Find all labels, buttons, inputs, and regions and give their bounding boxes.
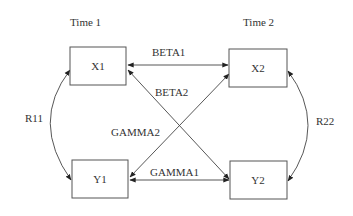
- node-y2-label: Y2: [251, 174, 264, 186]
- node-y1-label: Y1: [93, 173, 106, 185]
- path-diagram: Time 1 Time 2 BETA1 BETA2 GAMMA2 GAMMA1 …: [0, 0, 353, 216]
- r22-curve: [288, 71, 308, 181]
- r11-label: R11: [25, 112, 43, 124]
- node-x1-label: X1: [91, 60, 104, 72]
- node-y2: Y2: [230, 161, 287, 199]
- beta1-label: BETA1: [152, 46, 185, 58]
- node-x2: X2: [229, 49, 287, 87]
- beta2-label: BETA2: [155, 86, 188, 98]
- time-1-label: Time 1: [70, 16, 101, 28]
- node-x2-label: X2: [251, 62, 264, 74]
- r22-label: R22: [316, 115, 334, 127]
- r11-curve: [50, 70, 71, 180]
- node-x1: X1: [70, 47, 126, 85]
- gamma2-label: GAMMA2: [111, 126, 160, 138]
- node-y1: Y1: [72, 160, 128, 198]
- gamma1-label: GAMMA1: [150, 166, 199, 178]
- time-2-label: Time 2: [243, 16, 274, 28]
